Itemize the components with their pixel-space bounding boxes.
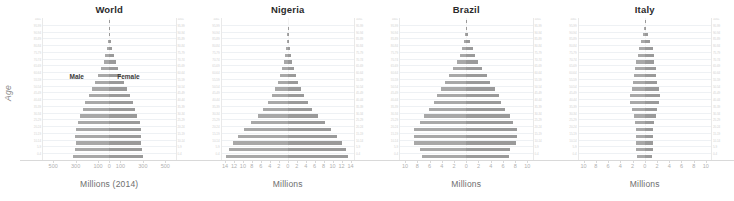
- bar-male: [635, 121, 645, 124]
- age-tick-label: 60-64: [212, 72, 219, 75]
- age-tick-label: 45-49: [178, 92, 185, 95]
- panel-title: World: [20, 0, 199, 18]
- age-tick-label: 75-79: [34, 52, 41, 55]
- age-tick-label: 70-74: [569, 59, 576, 62]
- age-tick-label: 95-99: [535, 25, 542, 28]
- age-tick-label: 70-74: [713, 59, 720, 62]
- bar-male: [424, 114, 466, 117]
- axis-spacer-left: [199, 160, 221, 176]
- bar-female: [645, 67, 656, 70]
- bar-male: [80, 114, 109, 117]
- bar-female: [466, 67, 482, 70]
- bar-female: [109, 101, 133, 104]
- age-tick-label: 45-49: [713, 92, 720, 95]
- x-axis-tick-label: 300: [138, 163, 147, 169]
- bar-male: [76, 141, 110, 144]
- bar-male: [434, 101, 467, 104]
- panel-world: World100+95-9990-9485-8980-8475-7970-746…: [20, 0, 199, 201]
- x-axis-tick-label: 0: [108, 163, 111, 169]
- bar-male: [73, 155, 109, 158]
- bar-male: [437, 94, 467, 97]
- age-tick-label: 90-94: [178, 32, 185, 35]
- age-tick-label: 50-54: [178, 86, 185, 89]
- age-tick-label: 95-99: [178, 25, 185, 28]
- x-axis-tick-label: 10: [330, 163, 336, 169]
- bar-female: [288, 94, 304, 97]
- age-tick-label: 20-24: [212, 126, 219, 129]
- bar-female: [466, 27, 467, 30]
- age-tick-label: 75-79: [535, 52, 542, 55]
- bar-female: [645, 128, 653, 131]
- axis-spacer-right: [177, 160, 199, 176]
- bar-male: [95, 81, 109, 84]
- x-axis: 1086420246810: [399, 160, 534, 176]
- bar-male: [78, 121, 109, 124]
- bar-female: [645, 141, 653, 144]
- age-tick-label: 10-14: [178, 140, 185, 143]
- bar-female: [466, 54, 475, 57]
- bar-female: [645, 74, 656, 77]
- age-tick-label: 25-29: [356, 119, 363, 122]
- bar-female: [109, 128, 141, 131]
- bar-female: [645, 108, 658, 111]
- bar-male: [75, 135, 109, 138]
- x-axis-tick-label: 6: [313, 163, 316, 169]
- age-tick-label: 50-54: [391, 86, 398, 89]
- x-axis-tick-label: 6: [680, 163, 683, 169]
- age-tick-label: 45-49: [212, 92, 219, 95]
- bar-male: [449, 74, 466, 77]
- age-tick-label: 90-94: [391, 32, 398, 35]
- age-tick-label: 20-24: [356, 126, 363, 129]
- plot-area: [399, 18, 534, 160]
- bar-male: [226, 155, 287, 158]
- bar-male: [244, 128, 288, 131]
- age-tick-label: 5-9: [215, 146, 219, 149]
- bar-male: [414, 141, 466, 144]
- age-tick-label: 0-4: [394, 153, 398, 156]
- age-tick-label: 90-94: [212, 32, 219, 35]
- bar-male: [278, 81, 288, 84]
- age-tick-label: 95-99: [34, 25, 41, 28]
- bar-male: [83, 108, 110, 111]
- age-axis-left: 100+95-9990-9485-8980-8475-7970-7465-696…: [377, 18, 399, 160]
- age-tick-label: 55-59: [535, 79, 542, 82]
- age-tick-label: 65-69: [391, 65, 398, 68]
- age-tick-label: 20-24: [713, 126, 720, 129]
- age-tick-label: 5-9: [535, 146, 539, 149]
- age-tick-label: 70-74: [391, 59, 398, 62]
- age-axis-right: 100+95-9990-9485-8980-8475-7970-7465-696…: [534, 18, 556, 160]
- bar-female: [288, 47, 290, 50]
- age-axis-left: 100+95-9990-9485-8980-8475-7970-7465-696…: [199, 18, 221, 160]
- age-tick-label: 55-59: [391, 79, 398, 82]
- bar-female: [109, 141, 141, 144]
- age-tick-label: 50-54: [212, 86, 219, 89]
- bar-male: [637, 155, 645, 158]
- bar-male: [632, 108, 645, 111]
- age-tick-label: 0-4: [572, 153, 576, 156]
- bar-female: [645, 101, 659, 104]
- age-tick-label: 10-14: [212, 140, 219, 143]
- bar-male: [636, 128, 645, 131]
- axis-spacer-right: [534, 160, 556, 176]
- bar-male: [272, 94, 288, 97]
- age-tick-label: 0-4: [178, 153, 182, 156]
- bar-female: [109, 114, 137, 117]
- age-tick-label: 15-19: [713, 133, 720, 136]
- age-tick-label: 55-59: [212, 79, 219, 82]
- x-axis-tick-label: 2: [477, 163, 480, 169]
- x-axis-tick-label: 2: [655, 163, 658, 169]
- male-annotation: Male: [70, 73, 84, 80]
- x-axis-tick-label: 4: [619, 163, 622, 169]
- age-tick-label: 5-9: [37, 146, 41, 149]
- bar-female: [466, 33, 468, 36]
- bar-female: [288, 121, 325, 124]
- age-tick-label: 35-39: [535, 106, 542, 109]
- age-tick-label: 35-39: [391, 106, 398, 109]
- age-tick-label: 85-89: [713, 38, 720, 41]
- age-tick-label: 25-29: [212, 119, 219, 122]
- axis-spacer-right: [355, 160, 377, 176]
- panel-title: Nigeria: [199, 0, 378, 18]
- x-axis-tick-label: 0: [286, 163, 289, 169]
- x-axis-tick-label: 10: [240, 163, 246, 169]
- age-tick-label: 65-69: [535, 65, 542, 68]
